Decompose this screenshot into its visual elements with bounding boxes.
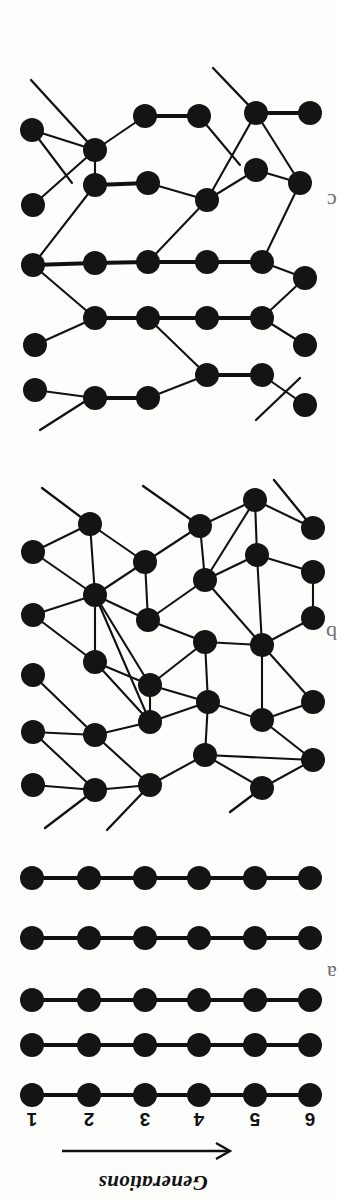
lattice-node <box>20 866 44 890</box>
lattice-node <box>20 1033 44 1057</box>
lattice-node <box>187 926 211 950</box>
network-graph-top <box>0 0 335 440</box>
axis-tick-label-1: 1 <box>20 1108 44 1130</box>
lattice-node <box>298 1033 322 1057</box>
lattice-node <box>133 926 157 950</box>
edge-group-middle <box>33 480 313 830</box>
panel-label-middle: b <box>326 620 337 646</box>
lattice-node <box>77 1033 101 1057</box>
network-panel-middle: b <box>0 440 335 840</box>
panel-label-top: c <box>327 188 337 214</box>
lattice-node <box>77 926 101 950</box>
panel-label-bottom: a <box>327 960 337 986</box>
lattice-node <box>187 1083 211 1107</box>
edge-group-bottom <box>32 878 310 1095</box>
axis-title: Generations <box>58 1170 248 1195</box>
lattice-node <box>298 866 322 890</box>
lattice-node <box>187 988 211 1012</box>
lattice-node <box>187 866 211 890</box>
lattice-node <box>298 1083 322 1107</box>
lattice-node <box>77 1083 101 1107</box>
lattice-node <box>20 926 44 950</box>
network-graph-middle <box>0 440 335 840</box>
lattice-node <box>243 1033 267 1057</box>
axis-tick-label-5: 5 <box>243 1108 267 1130</box>
axis-arrow-icon <box>0 1138 335 1164</box>
lattice-node <box>298 926 322 950</box>
lattice-node <box>20 1083 44 1107</box>
lattice-node <box>243 926 267 950</box>
node-group-bottom <box>20 866 322 1107</box>
lattice-node <box>20 988 44 1012</box>
lattice-node <box>133 988 157 1012</box>
axis-tick-label-4: 4 <box>187 1108 211 1130</box>
lattice-node <box>133 1033 157 1057</box>
network-graph-bottom <box>0 840 335 1140</box>
generations-axis: 123456 Generations <box>0 1108 335 1202</box>
lattice-node <box>243 1083 267 1107</box>
axis-tick-label-3: 3 <box>133 1108 157 1130</box>
network-panel-top: c <box>0 0 335 440</box>
lattice-node <box>243 866 267 890</box>
lattice-node <box>243 988 267 1012</box>
lattice-node <box>187 1033 211 1057</box>
lattice-node <box>133 1083 157 1107</box>
axis-tick-label-2: 2 <box>77 1108 101 1130</box>
lattice-node <box>133 866 157 890</box>
lattice-node <box>77 866 101 890</box>
lattice-node <box>298 988 322 1012</box>
node-group-top <box>20 80 322 417</box>
network-panel-bottom: a <box>0 840 335 1140</box>
lattice-node <box>77 988 101 1012</box>
axis-tick-label-6: 6 <box>298 1108 322 1130</box>
